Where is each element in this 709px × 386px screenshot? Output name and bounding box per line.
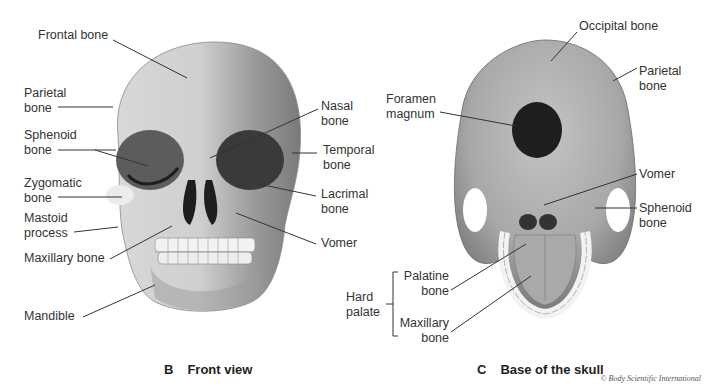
caption-letter-c: C [477, 362, 486, 377]
label-frontal-bone: Frontal bone [38, 28, 108, 43]
label-vomer-base: Vomer [639, 167, 675, 182]
base-view-skull [454, 40, 635, 314]
caption-front-view: BFront view [164, 362, 252, 377]
label-maxillary-bone-base: Maxillary bone [396, 316, 449, 345]
caption-letter-b: B [164, 362, 173, 377]
label-mandible: Mandible [24, 309, 75, 324]
label-hard-palate: Hard palate [346, 290, 380, 319]
label-parietal-bone-front: Parietal bone [24, 86, 66, 115]
label-zygomatic-bone: Zygomatic bone [24, 176, 82, 205]
label-sphenoid-bone-front: Sphenoid bone [24, 128, 77, 157]
copyright-credit: © Body Scientific International [601, 374, 702, 383]
label-mastoid-process: Mastoid process [24, 211, 68, 240]
caption-title-base: Base of the skull [500, 362, 603, 377]
label-palatine-bone: Palatine bone [400, 269, 449, 298]
label-sphenoid-bone-base: Sphenoid bone [639, 201, 692, 230]
label-nasal-bone: Nasal bone [321, 99, 353, 128]
label-lacrimal-bone: Lacrimal bone [321, 187, 368, 216]
caption-base-view: CBase of the skull [477, 362, 604, 377]
label-maxillary-bone-front: Maxillary bone [24, 251, 105, 266]
caption-title-front: Front view [187, 362, 252, 377]
label-temporal-bone: Temporal bone [323, 143, 374, 172]
label-parietal-bone-base: Parietal bone [639, 64, 681, 93]
label-vomer-front: Vomer [321, 236, 357, 251]
label-foramen-magnum: Foramen magnum [386, 92, 436, 121]
label-occipital-bone: Occipital bone [579, 19, 658, 34]
front-view-skull [106, 42, 301, 311]
